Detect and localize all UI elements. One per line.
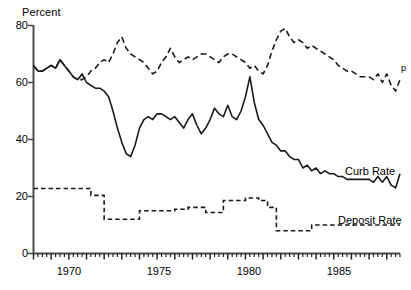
x-axis-major-ticks xyxy=(34,254,387,260)
chart-container: Percent 80 60 40 20 0 1970 1975 1980 198… xyxy=(0,0,411,290)
series-line-curb-rate xyxy=(34,60,401,188)
data-series-group xyxy=(34,28,401,230)
plot-area xyxy=(0,0,411,290)
y-axis-ticks xyxy=(28,26,33,254)
series-line-upper-dashed xyxy=(34,28,401,91)
series-line-deposit-rate xyxy=(34,189,401,231)
